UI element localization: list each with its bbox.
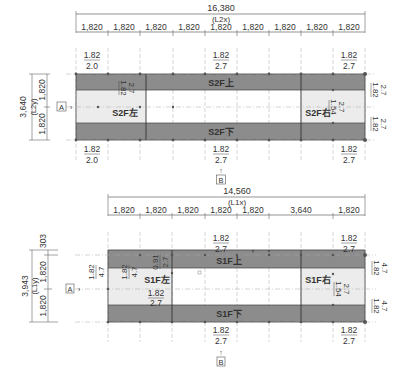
zone-label-right: S1F右 bbox=[305, 274, 331, 285]
ratio-bottom-left-den: 2.0 bbox=[86, 155, 98, 165]
ratio-left-lower-num: 1.82 bbox=[148, 288, 165, 298]
ratio-right-upper-num: 1.82 bbox=[372, 260, 381, 276]
ratio-bottom-mid-den: 2.7 bbox=[215, 155, 227, 165]
span-x: 1,820 bbox=[210, 205, 232, 215]
ratio-bottom-left-num: 1.82 bbox=[84, 144, 101, 154]
ratio-top-right-num: 1.82 bbox=[341, 233, 358, 243]
span-y: 1,820 bbox=[37, 113, 47, 135]
ratio-top-right-den: 2.7 bbox=[343, 244, 355, 254]
zone-label-top: S1F上 bbox=[216, 255, 242, 266]
zone-label-right: S2F右 bbox=[305, 107, 331, 118]
ratio-bottom-right-num: 1.82 bbox=[341, 144, 358, 154]
ratio-left-inner-den: 2.7 bbox=[127, 82, 136, 94]
ratio-top-mid-den: 2.7 bbox=[215, 61, 227, 71]
ratio-left-lower-den: 2.7 bbox=[150, 298, 162, 308]
span-x: 3,640 bbox=[290, 205, 312, 215]
overall-x-dimension: 16,380 bbox=[207, 3, 235, 13]
ratio-left-inner-den: 4.7 bbox=[130, 266, 139, 278]
span-y: 1,820 bbox=[37, 79, 47, 101]
overall-y-dimension: 3,640 bbox=[18, 96, 28, 118]
arrow-right-icon: › bbox=[78, 286, 81, 293]
zone-label-top: S2F上 bbox=[208, 77, 234, 88]
ratio-left-step-num: 0.91 bbox=[151, 254, 160, 270]
ratio-left-inner-num: 1.82 bbox=[119, 80, 128, 96]
ratio-left-inner-num: 1.82 bbox=[120, 264, 129, 280]
plan-1f: 14,560 (L1x) 1,820 1,820 1,820 1,820 1,8… bbox=[20, 186, 389, 367]
zone-left-fill bbox=[76, 90, 146, 123]
ratio-top-mid-num: 1.82 bbox=[213, 50, 230, 60]
span-x: 1,820 bbox=[338, 22, 360, 32]
ratio-left-outer-den: 4.7 bbox=[97, 266, 106, 278]
grid-label-a: A bbox=[59, 103, 64, 112]
span-x: 1,820 bbox=[210, 22, 232, 32]
ratio-bottom-right-den: 2.7 bbox=[343, 155, 355, 165]
ratio-top-left-den: 2.0 bbox=[86, 61, 98, 71]
grid-label-a: A bbox=[67, 285, 72, 294]
overall-x-dimension: 14,560 bbox=[223, 186, 251, 196]
ratio-top-left-num: 1.82 bbox=[84, 50, 101, 60]
span-y: 1,820 bbox=[38, 295, 48, 317]
ratio-bottom-mid-num: 1.82 bbox=[213, 144, 230, 154]
ratio-right-upper-den: 4.7 bbox=[380, 262, 389, 274]
ratio-right-lower-den: 4.7 bbox=[380, 300, 389, 312]
grid-label-b: B bbox=[218, 176, 223, 185]
span-x: 1,820 bbox=[338, 205, 360, 215]
structural-plan-diagram: 16,380 (L2x) 1,820 1,820 1,820 1,820 1,8… bbox=[0, 0, 406, 381]
zone-label-bottom: S1F下 bbox=[216, 309, 242, 319]
span-x: 1,820 bbox=[81, 22, 103, 32]
ratio-left-step-den: 2.7 bbox=[161, 256, 170, 268]
zone-label-left: S2F左 bbox=[112, 107, 138, 118]
ratio-bottom-mid-den: 2.7 bbox=[215, 336, 227, 346]
ratio-left-outer-num: 1.82 bbox=[87, 264, 96, 280]
span-x: 1,820 bbox=[113, 205, 135, 215]
arrow-up-icon: ↑ bbox=[219, 167, 223, 174]
ratio-right-lower-num: 1.82 bbox=[371, 116, 380, 132]
plan-2f: 16,380 (L2x) 1,820 1,820 1,820 1,820 1,8… bbox=[18, 3, 388, 185]
span-y: 1,820 bbox=[38, 261, 48, 283]
span-x: 1,820 bbox=[178, 22, 200, 32]
ratio-right-lower-den: 2.7 bbox=[379, 118, 388, 130]
span-y: 303 bbox=[38, 234, 48, 248]
span-x: 1,820 bbox=[242, 22, 264, 32]
zone-label-bottom: S2F下 bbox=[208, 127, 234, 137]
span-x: 1,820 bbox=[306, 22, 328, 32]
ratio-right-inner-den: 2.7 bbox=[342, 283, 351, 295]
ratio-bottom-right-num: 1.82 bbox=[341, 325, 358, 335]
ratio-right-upper-num: 1.82 bbox=[371, 82, 380, 98]
ratio-right-upper-den: 2.7 bbox=[379, 84, 388, 96]
ratio-right-inner-den: 2.7 bbox=[337, 101, 346, 113]
ratio-right-lower-num: 1.82 bbox=[372, 298, 381, 314]
ratio-bottom-mid-num: 1.82 bbox=[213, 325, 230, 335]
span-x: 1,820 bbox=[113, 22, 135, 32]
span-x: 1,820 bbox=[242, 205, 264, 215]
ratio-top-right-den: 2.7 bbox=[343, 61, 355, 71]
zone-left-fill bbox=[108, 268, 172, 305]
ratio-top-mid-num: 1.82 bbox=[213, 233, 230, 243]
span-x: 1,820 bbox=[145, 205, 167, 215]
span-x: 1,820 bbox=[145, 22, 167, 32]
ratio-top-right-num: 1.82 bbox=[341, 50, 358, 60]
span-x: 1,820 bbox=[177, 205, 199, 215]
ratio-right-inner-num: 1.54 bbox=[334, 281, 343, 297]
ratio-top-mid-den: 2.7 bbox=[215, 244, 227, 254]
grid-label-b: B bbox=[218, 358, 223, 367]
span-x: 1,820 bbox=[274, 22, 296, 32]
zone-label-left: S1F左 bbox=[144, 274, 170, 285]
overall-y-dimension: 3,943 bbox=[20, 275, 30, 297]
ratio-right-inner-num: 1.54 bbox=[329, 99, 338, 115]
arrow-up-icon: ↑ bbox=[219, 349, 223, 356]
arrow-right-icon: › bbox=[70, 104, 73, 111]
ratio-bottom-right-den: 2.7 bbox=[343, 336, 355, 346]
